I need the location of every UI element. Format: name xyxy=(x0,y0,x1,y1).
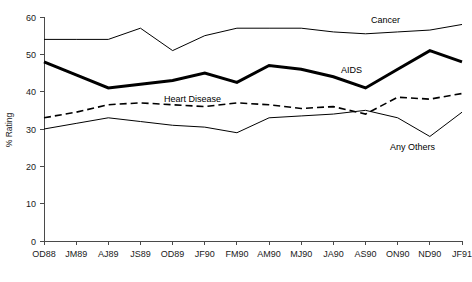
chart-container: 0102030405060 % Rating OD88JM89AJ89JS89O… xyxy=(0,0,472,282)
line-chart: 0102030405060 % Rating OD88JM89AJ89JS89O… xyxy=(0,0,472,282)
x-tick-label: JM89 xyxy=(65,249,87,259)
x-tick-label: AM90 xyxy=(257,249,281,259)
y-axis-group: 0102030405060 % Rating xyxy=(4,13,44,247)
y-tick-label: 60 xyxy=(26,13,36,23)
x-tick-label: JF90 xyxy=(195,249,215,259)
series-group xyxy=(44,24,462,136)
y-tick-label: 30 xyxy=(26,125,36,135)
series-label-cancer: Cancer xyxy=(371,15,400,25)
x-tick-label: MJ90 xyxy=(290,249,312,259)
series-label-heart-disease: Heart Disease xyxy=(164,94,221,104)
y-tick-label: 0 xyxy=(31,237,36,247)
series-line-heart-disease xyxy=(44,94,462,118)
y-tick-label: 50 xyxy=(26,50,36,60)
x-tick-label: JA90 xyxy=(323,249,344,259)
y-tick-label: 40 xyxy=(26,87,36,97)
x-tick-label: JF91 xyxy=(452,249,472,259)
y-axis-title: % Rating xyxy=(4,112,14,147)
series-label-any-others: Any Others xyxy=(390,142,436,152)
x-tick-label: AJ89 xyxy=(98,249,119,259)
x-tick-label: ON90 xyxy=(386,249,410,259)
x-axis-group: OD88JM89AJ89JS89OD89JF90FM90AM90MJ90JA90… xyxy=(32,241,472,259)
series-line-any-others xyxy=(44,110,462,136)
y-tick-label: 20 xyxy=(26,162,36,172)
series-label-aids: AIDS xyxy=(341,65,362,75)
y-tick-label: 10 xyxy=(26,199,36,209)
series-line-aids xyxy=(44,51,462,88)
x-tick-label: JS89 xyxy=(130,249,151,259)
x-tick-label: ND90 xyxy=(418,249,441,259)
x-tick-label: AS90 xyxy=(355,249,377,259)
x-tick-label: OD89 xyxy=(161,249,185,259)
series-line-cancer xyxy=(44,24,462,50)
x-tick-label: FM90 xyxy=(225,249,248,259)
x-tick-label: OD88 xyxy=(32,249,56,259)
x-tick-group: OD88JM89AJ89JS89OD89JF90FM90AM90MJ90JA90… xyxy=(32,241,472,259)
y-tick-group: 0102030405060 xyxy=(26,13,44,247)
